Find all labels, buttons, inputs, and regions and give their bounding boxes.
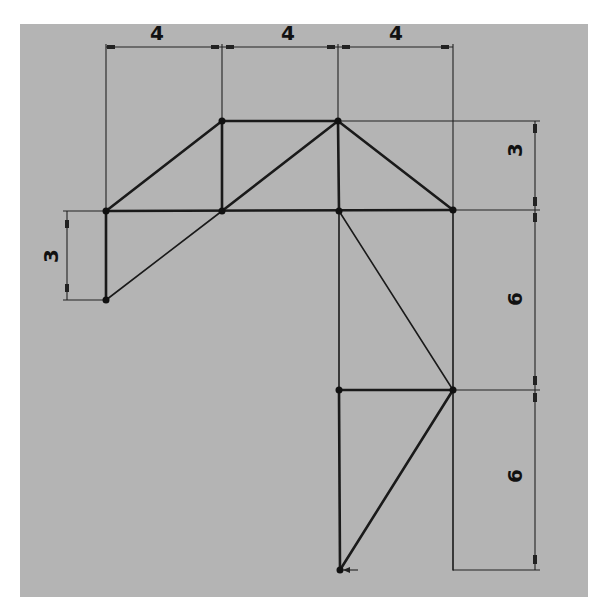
member-A-F	[106, 210, 453, 211]
node-E	[336, 208, 343, 215]
drawing-background	[20, 24, 588, 597]
dimension-label-top-1: 4	[150, 21, 164, 45]
dimension-label-top-3: 4	[389, 21, 403, 45]
node-I	[450, 387, 457, 394]
dimension-label-top-2: 4	[281, 21, 295, 45]
truss-diagram: 4 4 4 3 6 6 3	[0, 0, 605, 609]
node-A	[103, 208, 110, 215]
node-J	[337, 567, 344, 574]
member-C-E	[338, 121, 339, 211]
node-D	[219, 208, 226, 215]
dimension-label-right-3: 6	[503, 469, 527, 483]
dimension-label-right-2: 6	[503, 292, 527, 306]
node-H	[336, 387, 343, 394]
dimension-label-left-1: 3	[39, 249, 63, 263]
node-C	[335, 118, 342, 125]
node-G	[103, 297, 110, 304]
member-H-J	[339, 390, 340, 570]
dimension-label-right-1: 3	[503, 143, 527, 157]
node-B	[219, 118, 226, 125]
node-F	[450, 207, 457, 214]
